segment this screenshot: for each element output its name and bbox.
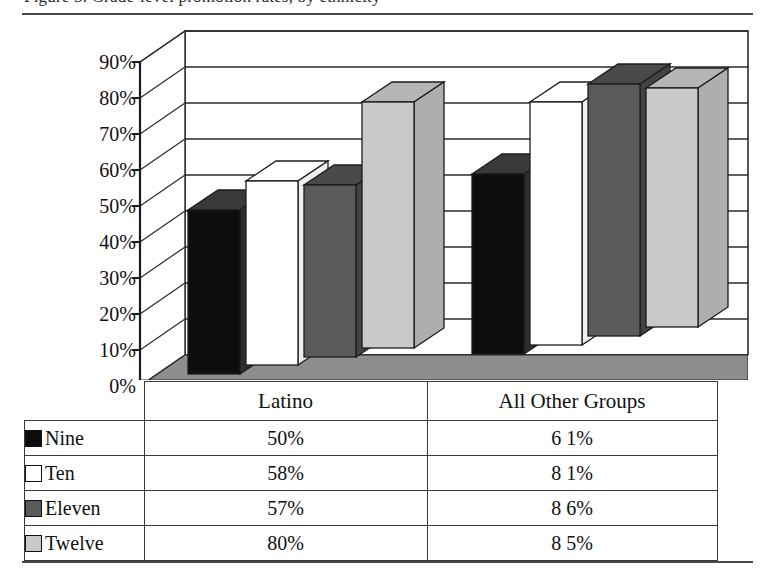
table-header-row: Latino All Other Groups (25, 382, 718, 421)
cell-eleven-latino: 57% (144, 491, 427, 526)
table-row: Ten 58% 8 1% (25, 456, 718, 491)
cell-nine-latino: 50% (144, 421, 427, 456)
legend-cell-eleven: Eleven (25, 491, 145, 526)
figure-caption-clipped: Figure 5. Grade-level promotion rates, b… (0, 0, 777, 9)
y-tick-label-90: 90% (6, 52, 136, 72)
data-table: Latino All Other Groups Nine 50% 6 1% Te… (24, 381, 718, 561)
dark-gray-swatch-icon (25, 500, 42, 517)
table-row: Twelve 80% 8 5% (25, 526, 718, 561)
legend-cell-ten: Ten (25, 456, 145, 491)
y-tick-label-30: 30% (6, 268, 136, 288)
legend-label-twelve: Twelve (45, 532, 104, 554)
data-table-wrapper: Latino All Other Groups Nine 50% 6 1% Te… (24, 381, 714, 541)
bar-latino-twelve (362, 82, 444, 348)
y-tick-label-70: 70% (6, 124, 136, 144)
bottom-horizontal-rule (22, 561, 753, 563)
white-swatch-icon (25, 465, 42, 482)
y-tick-label-50: 50% (6, 196, 136, 216)
cell-ten-latino: 58% (144, 456, 427, 491)
figure-page: Figure 5. Grade-level promotion rates, b… (0, 0, 777, 579)
header-latino: Latino (144, 382, 427, 421)
header-all-other-groups: All Other Groups (427, 382, 717, 421)
cell-eleven-other: 8 6% (427, 491, 717, 526)
header-legend-blank (25, 382, 145, 421)
chart-side-wall (140, 31, 185, 380)
figure-caption-text: Figure 5. Grade-level promotion rates, b… (24, 0, 381, 7)
light-gray-swatch-icon (25, 535, 42, 552)
black-swatch-icon (25, 430, 42, 447)
top-horizontal-rule (22, 13, 753, 15)
table-row: Nine 50% 6 1% (25, 421, 718, 456)
legend-cell-nine: Nine (25, 421, 145, 456)
y-tick-label-80: 80% (6, 88, 136, 108)
bar-other-twelve (646, 68, 728, 327)
y-tick-label-60: 60% (6, 160, 136, 180)
cell-ten-other: 8 1% (427, 456, 717, 491)
bar-chart: 90% 80% 70% 60% 50% 40% 30% 20% 10% 0% (0, 18, 777, 380)
legend-label-ten: Ten (45, 462, 75, 484)
y-tick-label-10: 10% (6, 340, 136, 360)
cell-twelve-latino: 80% (144, 526, 427, 561)
legend-label-eleven: Eleven (45, 497, 101, 519)
cell-twelve-other: 8 5% (427, 526, 717, 561)
y-tick-label-20: 20% (6, 304, 136, 324)
legend-cell-twelve: Twelve (25, 526, 145, 561)
y-axis-labels: 90% 80% 70% 60% 50% 40% 30% 20% 10% 0% (0, 18, 136, 380)
table-row: Eleven 57% 8 6% (25, 491, 718, 526)
legend-label-nine: Nine (45, 427, 84, 449)
y-tick-label-40: 40% (6, 232, 136, 252)
cell-nine-other: 6 1% (427, 421, 717, 456)
